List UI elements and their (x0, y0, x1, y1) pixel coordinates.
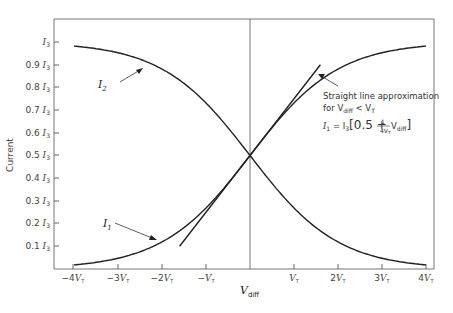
x-axis-tick-labels: −4VT−3VT−2VT−VTVT2VT3VT4VT (62, 273, 435, 284)
x-tick-label: −VT (197, 273, 215, 284)
x-tick-label: 3VT (374, 273, 390, 284)
i2-label: I2 (97, 78, 107, 93)
i2-leader-line (120, 70, 140, 82)
y-tick-label: 0.5 I3 (25, 150, 50, 161)
y-tick-label: 0.9 I3 (25, 60, 50, 71)
y-tick-label: 0.2 I3 (25, 218, 50, 229)
i1-leader-line (115, 223, 152, 238)
approx-leader-line (321, 76, 338, 86)
y-axis-tick-labels: I30.9 I30.8 I30.7 I30.6 I30.5 I30.4 I30.… (25, 37, 50, 252)
y-axis-ticks (54, 42, 59, 246)
svg-text:I1 = I3[0.5 +: I1 = I3[0.5 + (322, 118, 387, 132)
svg-text:Vdiff]: Vdiff] (391, 118, 411, 132)
y-tick-label: 0.4 I3 (25, 173, 50, 184)
y-tick-label: 0.3 I3 (25, 196, 50, 207)
i1-label: I1 (102, 217, 112, 232)
y-tick-label: 0.6 I3 (25, 128, 50, 139)
approx-annotation-line1: Straight line approximation (323, 91, 439, 101)
approx-annotation-line2: for Vdiff < VT (323, 103, 375, 114)
x-tick-label: VT (289, 273, 300, 284)
y-axis-title: Current (5, 138, 15, 172)
x-tick-label: 2VT (330, 273, 346, 284)
transfer-characteristic-chart: I30.9 I30.8 I30.7 I30.6 I30.5 I30.4 I30.… (0, 0, 453, 313)
approx-formula: I1 = I3[0.5 + 1 4VT Vdiff] (322, 118, 411, 135)
x-tick-label: −2VT (151, 273, 175, 284)
y-tick-label: 0.1 I3 (25, 241, 50, 252)
y-tick-label: 0.7 I3 (25, 105, 50, 116)
svg-text:1: 1 (381, 118, 385, 125)
y-tick-label: I3 (42, 37, 51, 48)
x-tick-label: −4VT (62, 273, 86, 284)
x-axis-title: Vdiff (240, 284, 259, 299)
y-tick-label: 0.8 I3 (25, 82, 50, 93)
x-tick-label: −3VT (107, 273, 131, 284)
x-tick-label: 4VT (418, 273, 434, 284)
i1-arrowhead-icon (149, 235, 157, 240)
i2-arrowhead-icon (136, 68, 143, 74)
svg-text:4VT: 4VT (380, 127, 391, 135)
